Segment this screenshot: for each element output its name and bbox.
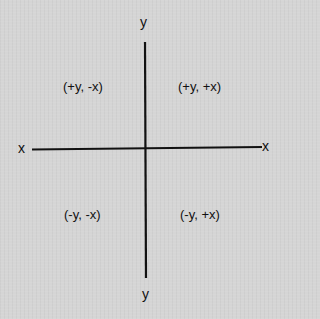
quadrant-top-right-label: (+y, +x) [178, 80, 221, 93]
x-axis-left-label: x [18, 141, 25, 155]
quadrant-top-left-label: (+y, -x) [63, 80, 103, 93]
x-axis-right-label: x [262, 139, 269, 153]
quadrant-bottom-left-label: (-y, -x) [64, 208, 101, 221]
axes-lines [0, 0, 284, 319]
coordinate-quadrant-diagram: y y x x (+y, -x) (+y, +x) (-y, -x) (-y, … [0, 0, 284, 319]
y-axis-top-label: y [140, 15, 147, 29]
quadrant-bottom-right-label: (-y, +x) [180, 208, 220, 221]
horizontal-axis-line [32, 147, 262, 150]
y-axis-bottom-label: y [142, 287, 149, 301]
vertical-axis-line [145, 42, 146, 278]
